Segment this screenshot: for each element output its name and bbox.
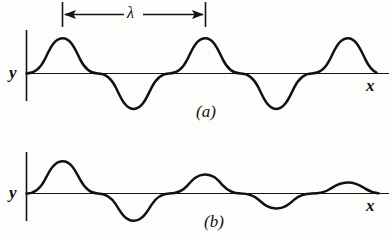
wavelength-dimension: [63, 2, 206, 27]
panel-a-x-axis-label: x: [366, 77, 375, 94]
panel-b-y-axis-label: y: [9, 184, 17, 201]
panel-b-caption: (b): [204, 213, 224, 230]
panel-a-caption: (a): [196, 103, 216, 120]
panel-b: [26, 152, 389, 221]
wavelength-symbol-label: λ: [127, 5, 134, 21]
panel-b-x-axis-label: x: [366, 197, 375, 214]
panel-b-wave-curve: [27, 161, 379, 221]
panel-a-y-axis-label: y: [9, 64, 17, 81]
panel-a: [26, 2, 389, 109]
wave-figure: λ y x (a) y x (b): [0, 0, 392, 240]
